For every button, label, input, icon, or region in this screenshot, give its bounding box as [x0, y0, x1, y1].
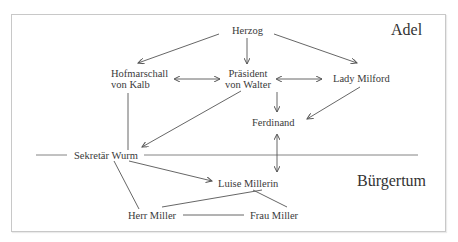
node-herzog: Herzog [232, 25, 263, 36]
edge-luise-fraumiller [253, 190, 287, 207]
node-frau-miller: Frau Miller [250, 210, 298, 221]
edge-wurm-herrmiller [114, 161, 139, 209]
edge-luise-herrmiller [162, 190, 262, 207]
node-praesident-line1: Präsident [225, 68, 271, 79]
node-praesident: Präsident von Walter [225, 68, 271, 90]
edge-wurm-luise [129, 161, 212, 181]
edge-lady-ferdinand [307, 87, 360, 119]
node-ferdinand: Ferdinand [252, 117, 295, 128]
relationship-lines [0, 0, 458, 242]
node-luise-millerin: Luise Millerin [218, 178, 278, 189]
zone-label-adel: Adel [391, 21, 422, 39]
edge-herzog-hofmarschall [138, 34, 219, 63]
node-praesident-line2: von Walter [225, 79, 271, 90]
node-lady-milford: Lady Milford [333, 73, 390, 84]
node-hofmarschall: Hofmarschall von Kalb [111, 68, 168, 90]
node-hofmarschall-line2: von Kalb [111, 79, 168, 90]
node-herr-miller: Herr Miller [128, 210, 176, 221]
node-sekretaer-wurm: Sekretär Wurm [74, 150, 138, 161]
node-hofmarschall-line1: Hofmarschall [111, 68, 168, 79]
edge-herzog-lady [274, 34, 357, 63]
zone-label-buergertum: Bürgertum [357, 172, 426, 190]
edge-praesident-wurm [142, 91, 241, 147]
